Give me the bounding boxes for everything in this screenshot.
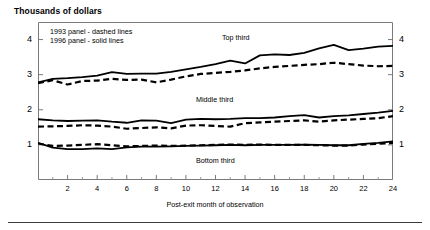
chart-title: Thousands of dollars	[14, 6, 102, 16]
x-tick-10: 10	[176, 184, 196, 193]
y-tick-right-1: 1	[399, 139, 415, 149]
y-tick-left-4: 4	[16, 34, 32, 44]
series-label-bottom-third: Bottom third	[196, 156, 235, 165]
series-label-top-third: Top third	[222, 33, 250, 42]
legend-entry-1993: 1993 panel - dashed lines	[50, 27, 132, 36]
y-tick-right-2: 2	[399, 104, 415, 114]
x-tick-12: 12	[206, 184, 226, 193]
series-middle-1996	[38, 111, 393, 123]
x-tick-2: 2	[58, 184, 78, 193]
y-tick-right-3: 3	[399, 69, 415, 79]
x-tick-20: 20	[324, 184, 344, 193]
y-tick-left-2: 2	[16, 104, 32, 114]
x-tick-16: 16	[265, 184, 285, 193]
legend: 1993 panel - dashed lines 1996 panel - s…	[50, 27, 132, 45]
legend-entry-1996: 1996 panel - solid lines	[50, 36, 132, 45]
series-top-1993	[38, 63, 393, 85]
x-tick-14: 14	[235, 184, 255, 193]
x-tick-22: 22	[353, 184, 373, 193]
x-tick-6: 6	[117, 184, 137, 193]
y-tick-right-4: 4	[399, 34, 415, 44]
x-tick-4: 4	[87, 184, 107, 193]
x-axis-title: Post-exit month of observation	[0, 200, 430, 209]
y-tick-left-3: 3	[16, 69, 32, 79]
series-label-middle-third: Middle third	[196, 95, 233, 104]
footer-divider	[8, 222, 422, 223]
figure-container: Thousands of dollars 1234 1234 246810121…	[0, 0, 430, 230]
x-tick-24: 24	[383, 184, 403, 193]
x-tick-18: 18	[294, 184, 314, 193]
y-tick-left-1: 1	[16, 139, 32, 149]
series-middle-1993	[38, 116, 393, 129]
x-tick-8: 8	[146, 184, 166, 193]
